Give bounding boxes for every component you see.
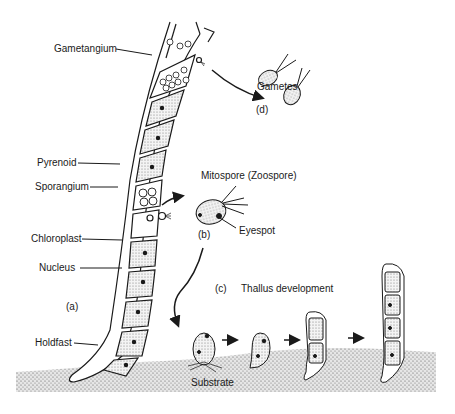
- label-pyrenoid: Pyrenoid: [37, 158, 76, 168]
- arrow-to-thallus: [174, 248, 203, 325]
- label-gametangium: Gametangium: [54, 44, 117, 54]
- panel-label-c: (c): [215, 284, 227, 294]
- panel-label-d: (d): [256, 105, 268, 115]
- label-eyespot: Eyespot: [239, 226, 275, 236]
- panel-label-a: (a): [66, 302, 78, 312]
- filament-a: [69, 22, 214, 382]
- label-holdfast: Holdfast: [35, 338, 72, 348]
- label-thallus-development: Thallus development: [241, 284, 333, 294]
- label-nucleus: Nucleus: [39, 263, 75, 273]
- panel-label-b: (b): [198, 230, 210, 240]
- label-sporangium: Sporangium: [35, 182, 89, 192]
- label-substrate: Substrate: [191, 378, 234, 388]
- diagram-canvas: [0, 0, 455, 414]
- arrow-to-mitospore: [162, 196, 182, 205]
- mitospore-b: [193, 186, 248, 228]
- label-mitospore: Mitospore (Zoospore): [201, 171, 297, 181]
- label-chloroplast: Chloroplast: [31, 234, 82, 244]
- arrow-to-gametes: [212, 70, 262, 98]
- label-gametes: Gametes: [257, 82, 298, 92]
